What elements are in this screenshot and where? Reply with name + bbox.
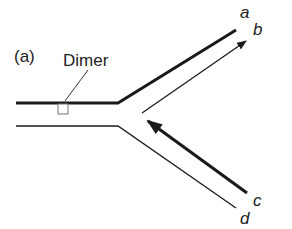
dimer-leader-line bbox=[65, 70, 88, 101]
panel-label: (a) bbox=[14, 47, 35, 66]
strand-a-label: a bbox=[240, 3, 249, 22]
strand-a-line bbox=[16, 30, 236, 103]
dimer-label: Dimer bbox=[63, 51, 109, 70]
replication-fork-diagram: (a) Dimer a b c d bbox=[0, 0, 292, 229]
dimer-box bbox=[58, 104, 68, 114]
strand-b-label: b bbox=[253, 20, 262, 39]
strand-d-line bbox=[16, 126, 236, 208]
strand-d-label: d bbox=[240, 209, 250, 228]
strand-c-label: c bbox=[253, 191, 262, 210]
